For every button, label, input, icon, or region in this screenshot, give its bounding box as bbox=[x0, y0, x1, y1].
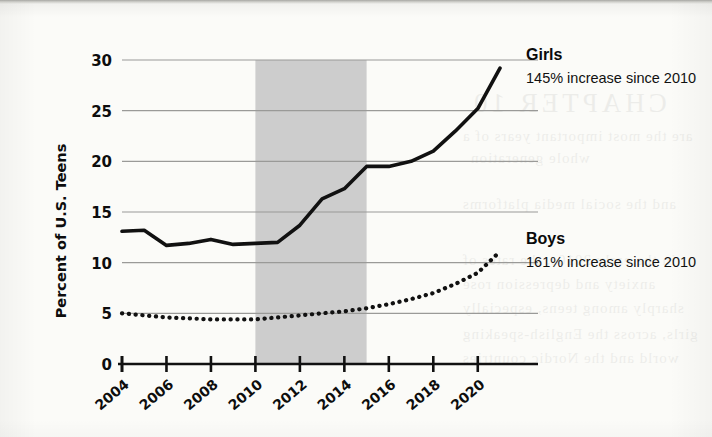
boys-series-annotation: 161% increase since 2010 bbox=[526, 254, 696, 270]
x-tick-label: 2016 bbox=[359, 376, 399, 413]
chart-canvas: 051015202530 200420062008201020122014201… bbox=[40, 16, 712, 437]
x-tick-label: 2008 bbox=[181, 376, 221, 413]
boys-series-label: Boys bbox=[526, 230, 565, 247]
y-tick-label: 5 bbox=[102, 305, 112, 323]
x-tick-label: 2018 bbox=[403, 376, 443, 413]
girls-series-annotation: 145% increase since 2010 bbox=[526, 70, 696, 86]
x-tick-label: 2006 bbox=[136, 376, 176, 413]
x-tick-label: 2020 bbox=[448, 376, 488, 413]
x-tick-label: 2014 bbox=[314, 376, 354, 413]
x-tick-label: 2012 bbox=[270, 376, 310, 413]
y-tick-label: 15 bbox=[91, 204, 112, 222]
teen-depression-line-chart: 051015202530 200420062008201020122014201… bbox=[40, 16, 712, 437]
y-axis-tick-labels: 051015202530 bbox=[91, 52, 112, 374]
y-tick-label: 0 bbox=[102, 356, 112, 374]
y-tick-label: 25 bbox=[91, 103, 112, 121]
scan-edge-artifact bbox=[0, 0, 712, 4]
x-tick-label: 2010 bbox=[225, 376, 265, 413]
x-axis-tick-labels: 200420062008201020122014201620182020 bbox=[92, 376, 488, 413]
y-tick-label: 30 bbox=[91, 52, 112, 70]
series-annotations: Girls 145% increase since 2010 Boys 161%… bbox=[526, 46, 696, 270]
y-axis-title: Percent of U.S. Teens bbox=[53, 144, 69, 319]
y-tick-label: 20 bbox=[91, 153, 112, 171]
x-tick-label: 2004 bbox=[92, 376, 132, 413]
y-tick-label: 10 bbox=[91, 255, 112, 273]
girls-series-label: Girls bbox=[526, 46, 563, 63]
